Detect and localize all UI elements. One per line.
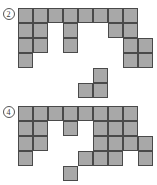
- grid-cell: [33, 106, 48, 121]
- grid-cell: [123, 136, 138, 151]
- figure-2-grid: [0, 0, 157, 93]
- grid-cell: [123, 38, 138, 53]
- grid-cell: [18, 53, 33, 68]
- grid-cell: [93, 106, 108, 121]
- grid-cell: [33, 121, 48, 136]
- grid-cell: [123, 23, 138, 38]
- grid-cell: [78, 106, 93, 121]
- grid-cell: [63, 23, 78, 38]
- grid-cell: [138, 53, 153, 68]
- polyomino-figure-2: 2: [0, 0, 157, 92]
- grid-cell: [108, 121, 123, 136]
- grid-cell: [33, 38, 48, 53]
- grid-cell: [48, 106, 63, 121]
- grid-cell: [108, 151, 123, 166]
- grid-cell: [108, 23, 123, 38]
- grid-cell: [33, 136, 48, 151]
- grid-cell: [18, 106, 33, 121]
- grid-cell: [123, 53, 138, 68]
- grid-cell: [93, 8, 108, 23]
- grid-cell: [123, 8, 138, 23]
- grid-cell: [33, 23, 48, 38]
- grid-cell: [123, 106, 138, 121]
- grid-cell: [93, 121, 108, 136]
- grid-cell: [138, 151, 153, 166]
- grid-cell: [18, 8, 33, 23]
- grid-cell: [93, 68, 108, 83]
- grid-cell: [48, 8, 63, 23]
- grid-cell: [93, 136, 108, 151]
- grid-cell: [123, 121, 138, 136]
- grid-cell: [108, 136, 123, 151]
- grid-cell: [63, 8, 78, 23]
- grid-cell: [108, 8, 123, 23]
- grid-cell: [18, 38, 33, 53]
- polyomino-figure-4: 4: [0, 92, 157, 185]
- grid-cell: [138, 38, 153, 53]
- grid-cell: [63, 38, 78, 53]
- grid-cell: [63, 121, 78, 136]
- grid-cell: [108, 106, 123, 121]
- grid-cell: [78, 151, 93, 166]
- grid-cell: [18, 151, 33, 166]
- grid-cell: [18, 136, 33, 151]
- grid-cell: [33, 8, 48, 23]
- grid-cell: [18, 23, 33, 38]
- grid-cell: [93, 151, 108, 166]
- grid-cell: [138, 136, 153, 151]
- grid-cell: [63, 166, 78, 181]
- figure-4-grid: [0, 92, 157, 185]
- grid-cell: [18, 121, 33, 136]
- grid-cell: [63, 106, 78, 121]
- grid-cell: [78, 8, 93, 23]
